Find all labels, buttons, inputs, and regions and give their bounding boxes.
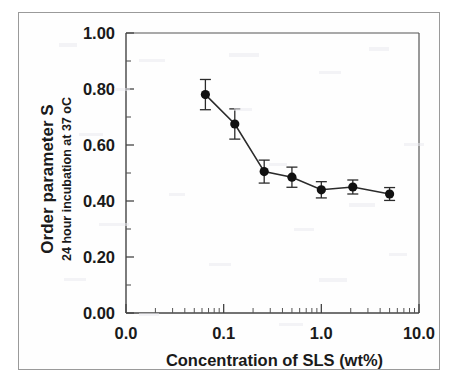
y-tick-label: 0.00 bbox=[83, 304, 115, 322]
data-point-marker bbox=[230, 119, 239, 128]
data-point-marker bbox=[385, 189, 394, 198]
y-tick-label: 0.20 bbox=[83, 248, 115, 266]
figure-border: 0.000.200.400.600.801.000.00.11.010.0Con… bbox=[18, 12, 440, 370]
x-tick-label: 1.0 bbox=[310, 324, 333, 342]
chart-plot: 0.000.200.400.600.801.000.00.11.010.0Con… bbox=[19, 13, 439, 369]
x-tick-label: 0.1 bbox=[212, 324, 235, 342]
y-tick-label: 1.00 bbox=[83, 24, 115, 42]
data-points-group bbox=[200, 79, 395, 200]
data-point-marker bbox=[260, 167, 269, 176]
x-tick-label: 0.0 bbox=[115, 324, 138, 342]
y-tick-label: 0.80 bbox=[83, 80, 115, 98]
x-tick-label: 10.0 bbox=[403, 324, 435, 342]
y-tick-label: 0.40 bbox=[83, 192, 115, 210]
y-axis-subtitle: 24 hour incubation at 37 oC bbox=[60, 97, 74, 261]
y-axis-title: Order parameter S bbox=[38, 104, 57, 253]
data-point-marker bbox=[317, 185, 326, 194]
x-axis-title: Concentration of SLS (wt%) bbox=[166, 351, 383, 369]
y-tick-label: 0.60 bbox=[83, 136, 115, 154]
data-point-marker bbox=[201, 90, 210, 99]
data-point-marker bbox=[287, 173, 296, 182]
data-point-marker bbox=[348, 182, 357, 191]
